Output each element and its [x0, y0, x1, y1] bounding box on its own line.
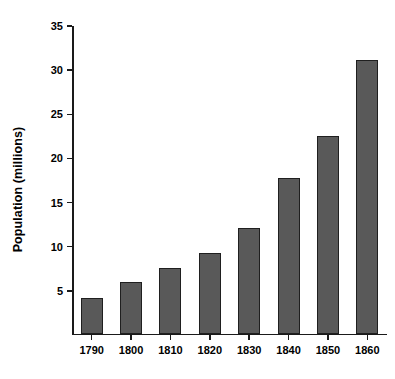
bar-chart: Population (millions) 5101520253035 1790…	[0, 0, 395, 379]
bar	[356, 60, 378, 334]
x-tick-label: 1840	[276, 344, 300, 356]
bar	[159, 268, 181, 333]
y-tick: 35	[67, 25, 72, 26]
bar	[317, 136, 339, 334]
y-tick: 30	[67, 69, 72, 70]
bar	[81, 298, 103, 333]
x-tick	[209, 334, 210, 340]
x-tick	[248, 334, 249, 340]
y-tick-label: 35	[51, 20, 63, 32]
y-axis-title: Population (millions)	[0, 0, 36, 379]
x-axis-line	[72, 334, 387, 336]
y-tick-label: 30	[51, 64, 63, 76]
y-tick: 5	[67, 290, 72, 291]
x-tick-label: 1810	[158, 344, 182, 356]
x-tick-label: 1820	[198, 344, 222, 356]
x-tick	[130, 334, 131, 340]
bar	[120, 282, 142, 333]
x-tick-label: 1860	[355, 344, 379, 356]
bar	[199, 253, 221, 333]
x-tick-label: 1800	[119, 344, 143, 356]
bar	[278, 178, 300, 333]
x-tick-label: 1850	[316, 344, 340, 356]
y-tick-label: 15	[51, 197, 63, 209]
y-tick-label: 25	[51, 108, 63, 120]
bar	[238, 228, 260, 334]
plot-area: 5101520253035 17901800181018201830184018…	[72, 26, 387, 335]
y-tick: 10	[67, 246, 72, 247]
y-tick-label: 10	[51, 241, 63, 253]
x-tick-label: 1830	[237, 344, 261, 356]
x-tick	[91, 334, 92, 340]
y-tick: 20	[67, 158, 72, 159]
y-tick: 25	[67, 114, 72, 115]
y-tick-label: 5	[57, 285, 63, 297]
x-tick	[367, 334, 368, 340]
x-tick	[288, 334, 289, 340]
x-tick	[327, 334, 328, 340]
x-tick-label: 1790	[79, 344, 103, 356]
x-tick	[170, 334, 171, 340]
y-tick-label: 20	[51, 152, 63, 164]
y-axis-line	[72, 26, 74, 335]
y-tick: 15	[67, 202, 72, 203]
